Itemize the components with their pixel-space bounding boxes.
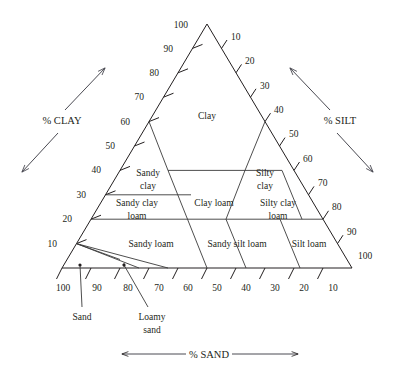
clay-tick-80: 80 [150,68,160,78]
region-label-sandy-silt-loam: Sandy silt loam [207,239,267,249]
callout-label-loamy-sand-line2: sand [143,325,161,335]
region-label-clay: Clay [198,111,216,121]
silt-axis-title: % SILT [324,115,357,126]
silt-tick-100: 100 [358,251,373,261]
silt-tick-60: 60 [303,154,313,164]
sand-axis-title: % SAND [189,349,229,360]
sand-tick-10: 10 [328,283,338,293]
silt-tick-50: 50 [289,129,299,139]
silt-arrow-up [290,68,330,110]
region-label-sandy-clay-line2: clay [140,181,156,191]
silt-tick-70: 70 [318,178,328,188]
sand-axis-title-group: % SAND [122,349,298,360]
silt-tick-40: 40 [274,105,284,115]
callout-label-sand: Sand [73,312,92,322]
clay-arrow-down [22,133,58,172]
clay-tick-100: 100 [174,20,189,30]
region-label-silty-clay-line1: Silty [256,168,274,178]
sand-tick-70: 70 [154,283,164,293]
silt-arrow-down [337,133,373,172]
callout-sand: Sand [73,265,92,322]
sand-tick-90: 90 [92,283,102,293]
region-label-silt-loam: Silt loam [292,239,327,249]
clay-tick-20: 20 [63,214,73,224]
clay-axis-title: % CLAY [43,115,82,126]
clay-tick-50: 50 [106,141,116,151]
clay-axis-title-group: % CLAY [22,68,105,172]
clay-tick-60: 60 [121,117,131,127]
sand-axis-ticks [57,268,324,279]
sand-tick-100: 100 [56,283,71,293]
callout-label-loamy-sand-line1: Loamy [139,312,166,322]
silt-tick-labels: 10 20 30 40 50 60 70 80 90 100 [231,32,373,261]
silt-tick-80: 80 [332,202,342,212]
sand-tick-80: 80 [123,283,133,293]
silt-tick-20: 20 [245,56,255,66]
region-label-silty-clay-loam-line1: Silty clay [260,198,296,208]
clay-tick-70: 70 [135,92,145,102]
sand-tick-labels: 100 90 80 70 60 50 40 30 20 10 [56,283,338,293]
silt-tick-30: 30 [260,81,270,91]
sand-tick-30: 30 [270,283,280,293]
region-label-silty-clay-loam-line2: loam [269,211,289,221]
clay-tick-90: 90 [164,44,174,54]
silt-tick-90: 90 [347,227,357,237]
region-label-sandy-loam: Sandy loam [128,239,174,249]
clay-tick-30: 30 [77,190,87,200]
sand-tick-50: 50 [212,283,222,293]
clay-tick-40: 40 [92,165,102,175]
sand-tick-60: 60 [183,283,193,293]
region-label-sandy-clay-line1: Sandy [136,168,160,178]
region-label-sandy-clay-loam-line1: Sandy clay [116,198,158,208]
clay-tick-labels: 100 90 80 70 60 50 40 30 20 10 [48,20,189,249]
clay-arrow-up [65,68,105,110]
sand-tick-40: 40 [241,283,251,293]
ternary-diagram-svg: 100 90 80 70 60 50 40 30 20 10 10 20 30 … [0,0,400,378]
soil-texture-triangle-figure: 100 90 80 70 60 50 40 30 20 10 10 20 30 … [0,0,400,378]
silt-tick-10: 10 [231,32,241,42]
sand-tick-20: 20 [299,283,309,293]
region-label-sandy-clay-loam-line2: loam [128,211,148,221]
region-label-clay-loam: Clay loam [194,198,234,208]
region-label-silty-clay-line2: clay [257,181,273,191]
clay-tick-10: 10 [48,239,58,249]
